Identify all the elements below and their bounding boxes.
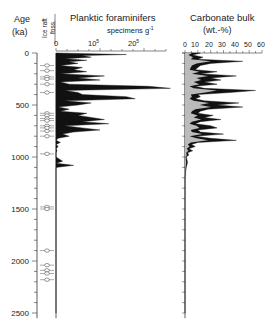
carb-unit: (wt.-%) [203,25,232,35]
svg-text:40: 40 [231,41,239,48]
svg-text:2000: 2000 [11,257,29,266]
svg-text:205: 205 [128,38,139,48]
svg-text:1500: 1500 [11,205,29,214]
svg-text:50: 50 [244,41,252,48]
foram-title: Planktic foraminifers [70,12,156,23]
foram-x-ticks: 0 105 205 [54,38,139,48]
svg-text:0: 0 [54,39,58,48]
carb-x-ticks: 0 10 20 30 40 50 60 [183,41,265,48]
svg-text:10: 10 [191,41,199,48]
svg-text:20: 20 [205,41,213,48]
svg-text:30: 30 [218,41,226,48]
foram-area [56,53,170,313]
ice-raft-header: Ice raft foss. [41,18,56,38]
chart-canvas: Age (ka) Ice raft foss. Planktic foramin… [0,0,280,333]
carb-title: Carbonate bulk [190,12,255,23]
svg-text:60: 60 [257,41,265,48]
svg-text:500: 500 [16,101,30,110]
ice-raft-markers [40,64,54,282]
svg-text:0: 0 [183,41,187,48]
svg-text:105: 105 [88,38,99,48]
ice-raft-label-1: Ice raft [41,18,48,38]
age-unit-label: (ka) [12,27,28,37]
carb-area [185,53,256,313]
svg-text:0: 0 [25,49,30,58]
foram-unit: specimens g-1 [107,25,154,35]
svg-text:2500: 2500 [11,309,29,318]
y-tick-labels: 0 500 1000 1500 2000 2500 [11,49,29,318]
age-label: Age [14,14,30,24]
svg-text:1000: 1000 [11,153,29,162]
